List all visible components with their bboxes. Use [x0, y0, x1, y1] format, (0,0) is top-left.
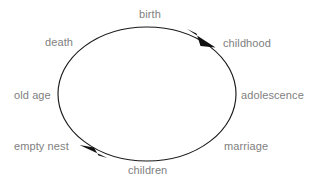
cycle-ellipse	[58, 27, 236, 161]
node-label-adolescence: adolescence	[241, 89, 304, 102]
node-label-children: children	[128, 164, 167, 177]
node-label-death: death	[45, 36, 73, 49]
arrow-top-right-icon	[187, 29, 216, 48]
node-label-empty-nest: empty nest	[14, 140, 69, 153]
cycle-diagram-canvas: birth childhood adolescence marriage chi…	[0, 0, 322, 185]
node-label-old-age: old age	[14, 89, 51, 102]
node-label-birth: birth	[139, 8, 161, 21]
arrow-bottom-left-icon	[80, 145, 108, 158]
node-label-marriage: marriage	[224, 140, 268, 153]
node-label-childhood: childhood	[223, 37, 271, 50]
